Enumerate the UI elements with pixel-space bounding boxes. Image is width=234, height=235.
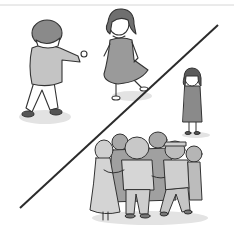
illustration: Grayscale cartoon: two children playing … — [0, 0, 234, 235]
girl-dancing-figure — [104, 9, 152, 101]
group-huddle — [90, 132, 208, 225]
lone-girl-figure — [182, 68, 210, 138]
boy-figure — [19, 20, 87, 124]
